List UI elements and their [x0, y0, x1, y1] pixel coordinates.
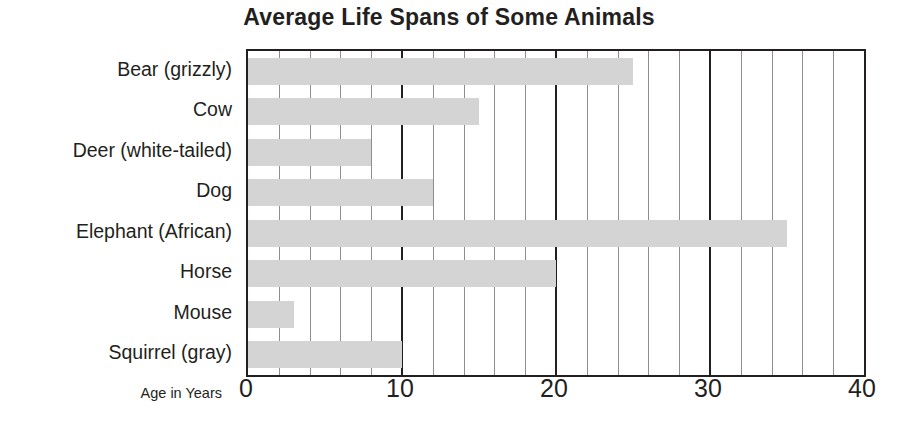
chart-container: Average Life Spans of Some Animals Bear …	[0, 0, 898, 425]
category-label: Mouse	[0, 292, 240, 333]
category-label: Horse	[0, 252, 240, 293]
category-label: Dog	[0, 171, 240, 212]
category-label: Squirrel (gray)	[0, 333, 240, 374]
bar-row	[248, 254, 864, 295]
bars-layer	[248, 51, 864, 375]
bar-row	[248, 132, 864, 173]
bar	[248, 139, 371, 166]
bar-row	[248, 92, 864, 133]
bar-row	[248, 173, 864, 214]
plot-area	[246, 49, 866, 377]
bar-row	[248, 51, 864, 92]
x-tick-label: 30	[694, 376, 722, 401]
category-label: Bear (grizzly)	[0, 49, 240, 90]
x-tick-label: 0	[239, 376, 253, 401]
bar	[248, 260, 556, 287]
bar-row	[248, 213, 864, 254]
bar	[248, 98, 479, 125]
x-tick-label: 40	[848, 376, 876, 401]
x-axis-title: Age in Years	[141, 385, 222, 401]
category-label: Cow	[0, 90, 240, 131]
x-tick-label: 10	[386, 376, 414, 401]
bar	[248, 179, 433, 206]
category-label: Deer (white-tailed)	[0, 130, 240, 171]
plot-inner	[248, 51, 864, 375]
x-axis: Age in Years 010203040	[0, 376, 898, 416]
category-axis: Bear (grizzly) Cow Deer (white-tailed) D…	[0, 49, 240, 373]
category-label: Elephant (African)	[0, 211, 240, 252]
bar	[248, 58, 633, 85]
bar-row	[248, 335, 864, 376]
chart-title: Average Life Spans of Some Animals	[0, 4, 898, 31]
bar	[248, 301, 294, 328]
x-tick-label: 20	[540, 376, 568, 401]
bar-row	[248, 294, 864, 335]
bar	[248, 341, 402, 368]
bar	[248, 220, 787, 247]
